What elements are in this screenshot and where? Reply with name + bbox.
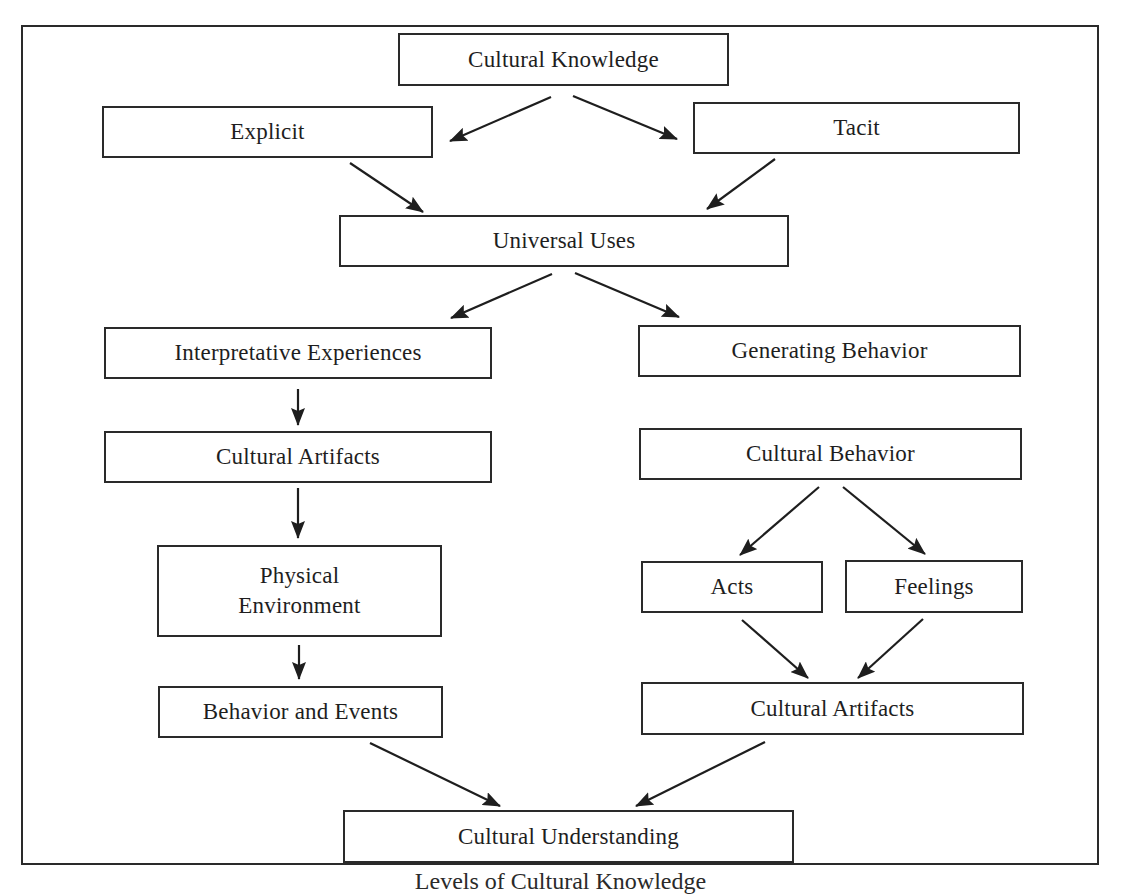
node-acts: Acts [641, 561, 823, 613]
node-label-line2: Environment [238, 591, 360, 621]
node-label: Acts [711, 572, 754, 602]
node-universal-uses: Universal Uses [339, 215, 789, 267]
node-label: Interpretative Experiences [174, 338, 421, 368]
node-cultural-artifacts-left: Cultural Artifacts [104, 431, 492, 483]
node-explicit: Explicit [102, 106, 433, 158]
node-cultural-understanding: Cultural Understanding [343, 810, 794, 863]
node-label: Cultural Behavior [746, 439, 915, 469]
node-feelings: Feelings [845, 560, 1023, 613]
node-label: Cultural Artifacts [751, 694, 915, 724]
node-behavior-and-events: Behavior and Events [158, 686, 443, 738]
node-tacit: Tacit [693, 102, 1020, 154]
node-physical-environment: Physical Environment [157, 545, 442, 637]
node-label: Cultural Artifacts [216, 442, 380, 472]
node-label: Tacit [833, 113, 880, 143]
node-generating-behavior: Generating Behavior [638, 325, 1021, 377]
node-label: Cultural Knowledge [468, 45, 659, 75]
node-cultural-behavior: Cultural Behavior [639, 428, 1022, 480]
node-label-line1: Physical [260, 561, 340, 591]
node-label: Cultural Understanding [458, 822, 679, 852]
node-label: Feelings [894, 572, 974, 602]
node-cultural-artifacts-right: Cultural Artifacts [641, 682, 1024, 735]
node-cultural-knowledge: Cultural Knowledge [398, 33, 729, 86]
node-label: Universal Uses [493, 226, 636, 256]
figure-caption: Levels of Cultural Knowledge [0, 868, 1121, 895]
node-label: Behavior and Events [203, 697, 398, 727]
node-interpretative-experiences: Interpretative Experiences [104, 327, 492, 379]
node-label: Generating Behavior [731, 336, 927, 366]
node-label: Explicit [230, 117, 304, 147]
